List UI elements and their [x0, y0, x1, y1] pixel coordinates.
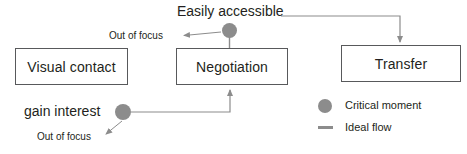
diagram-canvas: Visual contact Negotiation Transfer Easi…	[0, 0, 467, 154]
connector-easily-accessible-to-transfer	[281, 16, 400, 42]
label-out-of-focus-top: Out of focus	[109, 30, 163, 41]
legend-critical-moment-icon	[318, 99, 332, 113]
legend-ideal-flow-label: Ideal flow	[345, 121, 391, 133]
node-visual-contact-label: Visual contact	[27, 59, 115, 75]
legend-ideal-flow-icon	[318, 126, 333, 129]
legend-critical-moment-label: Critical moment	[345, 99, 421, 111]
label-gain-interest: gain interest	[24, 103, 100, 119]
connector-gain-interest-out-of-focus	[106, 121, 122, 134]
connector-gain-interest-to-negotiation	[131, 90, 230, 112]
node-transfer-label: Transfer	[375, 56, 427, 72]
connector-negotiation-out-of-focus	[184, 32, 221, 36]
label-out-of-focus-bottom: Out of focus	[37, 131, 91, 142]
node-transfer[interactable]: Transfer	[341, 45, 461, 82]
critical-moment-dot-gain-interest	[115, 104, 131, 120]
node-negotiation[interactable]: Negotiation	[176, 48, 288, 85]
label-easily-accessible: Easily accessible	[177, 3, 284, 19]
node-visual-contact[interactable]: Visual contact	[15, 48, 128, 85]
critical-moment-dot-negotiation	[222, 23, 237, 38]
node-negotiation-label: Negotiation	[196, 59, 268, 75]
